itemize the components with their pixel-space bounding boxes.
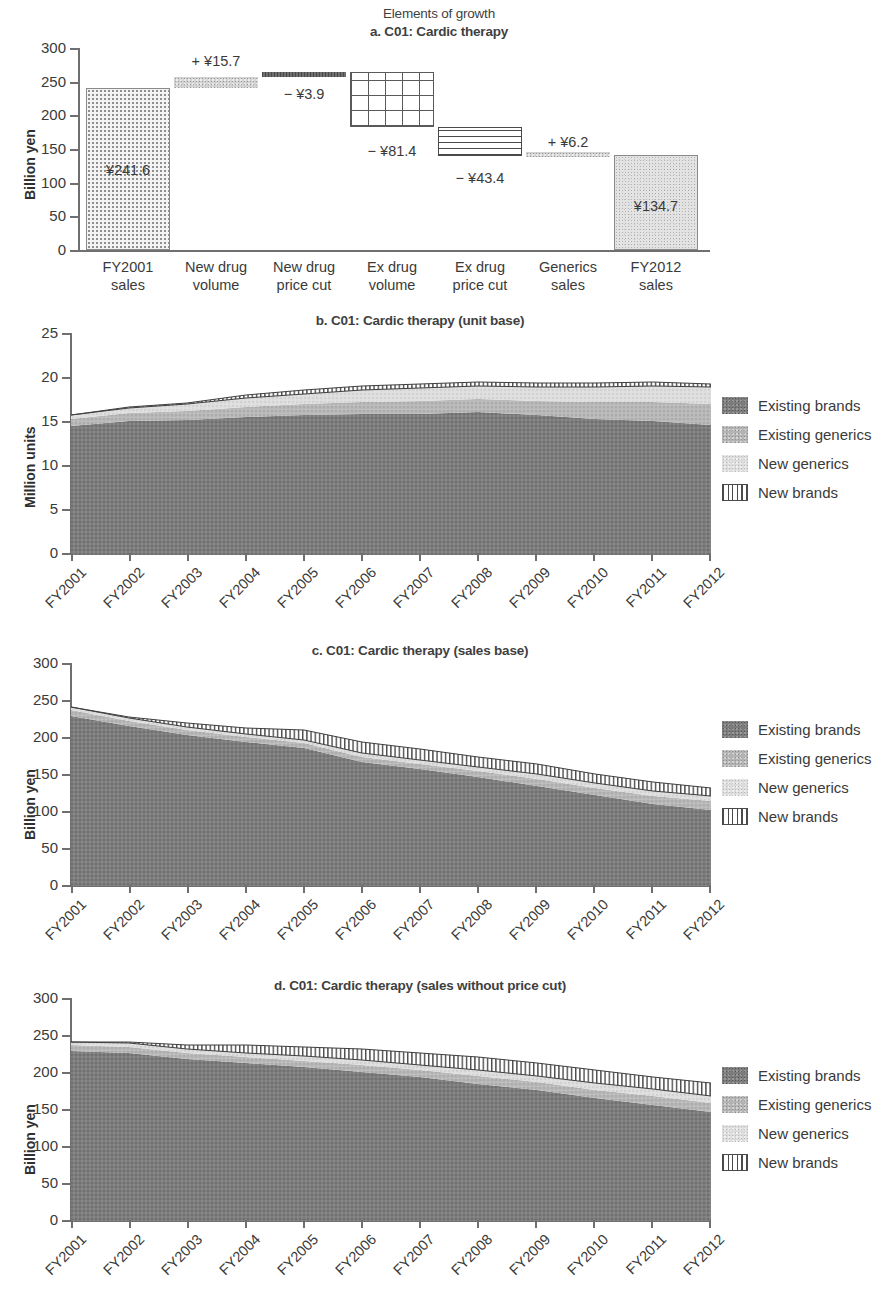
- waterfall-label-new-drug-volume: + ¥15.7: [174, 53, 258, 69]
- legend-label: New generics: [758, 779, 849, 796]
- category-line-1: Generics: [526, 258, 610, 276]
- legend-label: Existing brands: [758, 1067, 861, 1084]
- panel-c-xlabel-fy2011: FY2011: [616, 896, 670, 950]
- category-line-1: FY2001: [86, 258, 170, 276]
- legend-label: Existing generics: [758, 1096, 871, 1113]
- panel-d-sales-without-price-cut: d. C01: Cardic therapy (sales without pr…: [0, 975, 878, 1302]
- category-line-2: sales: [526, 276, 610, 294]
- panel-d-xlabel-fy2008: FY2008: [442, 1231, 496, 1285]
- category-line-2: volume: [350, 276, 434, 294]
- panel-c-xlabel-fy2008: FY2008: [442, 896, 496, 950]
- panel-d-xlabel-fy2002: FY2002: [94, 1231, 148, 1285]
- panel-d-xlabel-fy2012: FY2012: [674, 1231, 728, 1285]
- panel-a-category-ex-drug-price-cut: Ex drug price cut: [438, 258, 522, 294]
- vertical-lines-swatch-icon: [722, 808, 748, 825]
- panel-a-title: a. C01: Cardic therapy: [219, 24, 659, 39]
- panel-d-xlabel-fy2005: FY2005: [268, 1231, 322, 1285]
- panel-d-xlabel-fy2003: FY2003: [152, 1231, 206, 1285]
- panel-b-xlabel-fy2009: FY2009: [500, 564, 554, 618]
- area-existing-brands: [71, 412, 711, 555]
- legend-item-new-brands: New brands: [722, 802, 871, 831]
- vertical-lines-swatch-icon: [722, 1154, 748, 1171]
- panel-c-xlabel-fy2001: FY2001: [36, 896, 90, 950]
- dark-dotted-swatch-icon: [722, 721, 748, 738]
- panel-b-title: b. C01: Cardic therapy (unit base): [180, 313, 660, 328]
- panel-c-xlabel-fy2007: FY2007: [384, 896, 438, 950]
- panel-b-xlabel-fy2012: FY2012: [674, 564, 728, 618]
- area-existing-brands: [71, 716, 711, 886]
- category-line-2: sales: [614, 276, 698, 294]
- panel-d-xlabel-fy2001: FY2001: [36, 1231, 90, 1285]
- panel-c-legend: Existing brands Existing generics New ge…: [722, 715, 871, 831]
- panel-b-legend: Existing brands Existing generics New ge…: [722, 391, 871, 507]
- category-line-2: price cut: [262, 276, 346, 294]
- legend-item-existing-generics: Existing generics: [722, 420, 871, 449]
- legend-item-existing-generics: Existing generics: [722, 744, 871, 773]
- panel-b-xlabel-fy2008: FY2008: [442, 564, 496, 618]
- panel-d-xlabel-fy2009: FY2009: [500, 1231, 554, 1285]
- panel-c-stacked-area: [71, 663, 711, 886]
- legend-label: Existing brands: [758, 721, 861, 738]
- panel-c-xlabel-fy2009: FY2009: [500, 896, 554, 950]
- panel-a-category-generics-sales: Generics sales: [526, 258, 610, 294]
- panel-b-xlabel-fy2003: FY2003: [152, 564, 206, 618]
- waterfall-label-fy2001-sales: ¥241.6: [86, 162, 170, 178]
- panel-d-title: d. C01: Cardic therapy (sales without pr…: [160, 978, 680, 993]
- mid-dotted-swatch-icon: [722, 1096, 748, 1113]
- legend-label: New brands: [758, 808, 838, 825]
- panel-b-xlabel-fy2010: FY2010: [558, 564, 612, 618]
- panel-b-xlabel-fy2004: FY2004: [210, 564, 264, 618]
- panel-a-x-axis-spine: [78, 250, 710, 252]
- category-line-1: New drug: [262, 258, 346, 276]
- panel-b-unit-base: b. C01: Cardic therapy (unit base) Milli…: [0, 310, 878, 630]
- legend-label: Existing generics: [758, 750, 871, 767]
- waterfall-label-fy2012-sales: ¥134.7: [614, 198, 698, 214]
- legend-label: Existing brands: [758, 397, 861, 414]
- light-dotted-swatch-icon: [722, 779, 748, 796]
- panel-a-y-axis-spine: [78, 48, 80, 251]
- vertical-lines-swatch-icon: [722, 484, 748, 501]
- panel-b-xlabel-fy2011: FY2011: [616, 564, 670, 618]
- legend-item-new-generics: New generics: [722, 773, 871, 802]
- legend-item-existing-generics: Existing generics: [722, 1090, 871, 1119]
- category-line-2: sales: [86, 276, 170, 294]
- panel-a-category-fy2012-sales: FY2012 sales: [614, 258, 698, 294]
- panel-c-xlabel-fy2003: FY2003: [152, 896, 206, 950]
- legend-item-existing-brands: Existing brands: [722, 391, 871, 420]
- legend-label: Existing generics: [758, 426, 871, 443]
- legend-item-new-generics: New generics: [722, 1119, 871, 1148]
- panel-b-xlabel-fy2007: FY2007: [384, 564, 438, 618]
- panel-b-xlabel-fy2005: FY2005: [268, 564, 322, 618]
- legend-item-new-generics: New generics: [722, 449, 871, 478]
- waterfall-label-ex-drug-volume: − ¥81.4: [350, 143, 434, 159]
- light-dotted-swatch-icon: [722, 455, 748, 472]
- panel-b-xlabel-fy2001: FY2001: [36, 564, 90, 618]
- category-line-1: New drug: [174, 258, 258, 276]
- legend-item-new-brands: New brands: [722, 1148, 871, 1177]
- waterfall-bar-new-drug-price-cut: [262, 72, 346, 77]
- waterfall-bar-ex-drug-volume: [350, 72, 434, 127]
- category-line-2: volume: [174, 276, 258, 294]
- category-line-1: FY2012: [614, 258, 698, 276]
- panel-a-category-fy2001-sales: FY2001 sales: [86, 258, 170, 294]
- legend-label: New brands: [758, 484, 838, 501]
- legend-label: New generics: [758, 1125, 849, 1142]
- panel-c-xlabel-fy2004: FY2004: [210, 896, 264, 950]
- legend-item-existing-brands: Existing brands: [722, 1061, 871, 1090]
- panel-b-xlabel-fy2006: FY2006: [326, 564, 380, 618]
- panel-c-sales-base: c. C01: Cardic therapy (sales base) Bill…: [0, 640, 878, 960]
- legend-item-new-brands: New brands: [722, 478, 871, 507]
- panel-b-xlabel-fy2002: FY2002: [94, 564, 148, 618]
- category-line-1: Ex drug: [350, 258, 434, 276]
- dark-dotted-swatch-icon: [722, 1067, 748, 1084]
- panel-d-stacked-area: [71, 998, 711, 1221]
- waterfall-label-ex-drug-price-cut: − ¥43.4: [438, 170, 522, 186]
- panel-b-stacked-area: [71, 333, 711, 555]
- light-dotted-swatch-icon: [722, 1125, 748, 1142]
- category-line-2: price cut: [438, 276, 522, 294]
- waterfall-label-generics-sales: + ¥6.2: [526, 134, 610, 150]
- waterfall-bar-ex-drug-price-cut: [438, 127, 522, 156]
- panel-a-category-new-drug-volume: New drug volume: [174, 258, 258, 294]
- panel-d-legend: Existing brands Existing generics New ge…: [722, 1061, 871, 1177]
- panel-a-category-new-drug-price-cut: New drug price cut: [262, 258, 346, 294]
